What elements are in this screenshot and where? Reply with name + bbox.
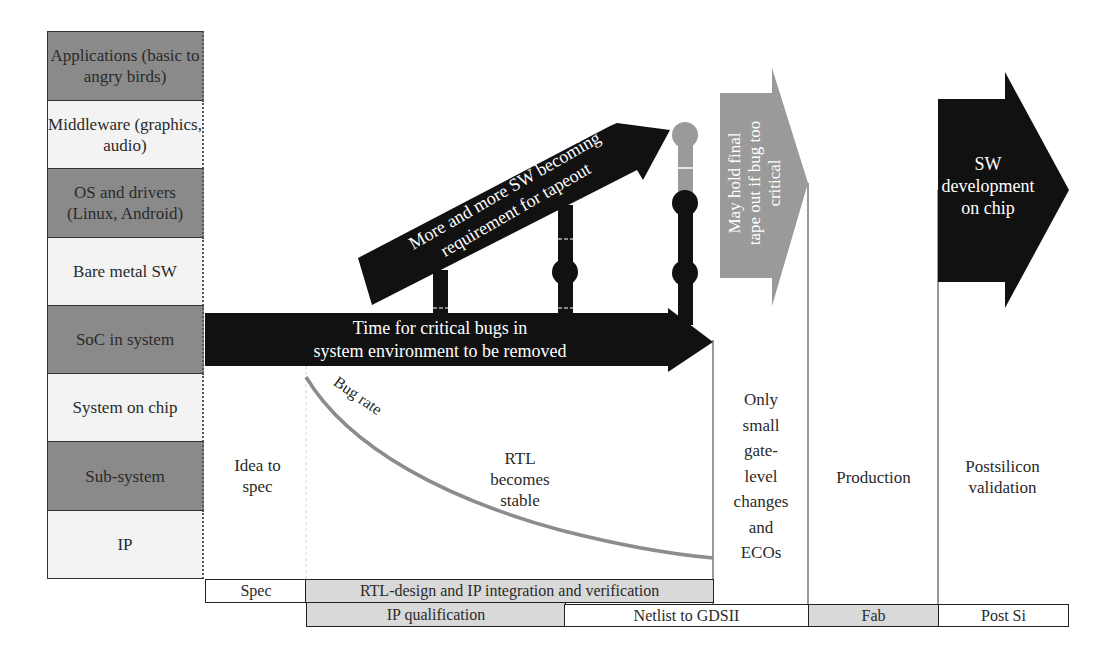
phase-rtl-stable: RTL becomes stable <box>470 448 570 511</box>
phase-production: Production <box>810 467 937 488</box>
sw-dev-line1: SW <box>938 153 1038 175</box>
sw-dev-line3: on chip <box>938 197 1038 219</box>
phase-eco-line: and <box>715 515 807 541</box>
hold-tapeout-line1: May hold final <box>725 93 745 273</box>
critical-bugs-line1: Time for critical bugs in <box>215 317 665 340</box>
layer-bare-metal: Bare metal SW <box>47 237 204 306</box>
timeline-post-si: Post Si <box>938 604 1069 627</box>
phase-rtl-line3: stable <box>470 490 570 511</box>
phase-rtl-line1: RTL <box>470 448 570 469</box>
layer-os-drivers: OS and drivers (Linux, Android) <box>47 168 204 238</box>
phase-eco-line: ECOs <box>715 540 807 566</box>
hold-tapeout-line2: tape out if bug too <box>745 93 765 273</box>
phase-eco-line: changes <box>715 489 807 515</box>
pillar-2 <box>552 205 578 315</box>
layer-label: SoC in system <box>76 329 174 350</box>
phase-eco-line: Only <box>715 387 807 413</box>
phase-eco-line: small <box>715 413 807 439</box>
phase-eco-line: level <box>715 464 807 490</box>
critical-bugs-line2: system environment to be removed <box>215 340 665 363</box>
phase-idea-line2: spec <box>215 476 300 497</box>
phase-idea-to-spec: Idea to spec <box>215 455 300 497</box>
pillar-1 <box>433 270 448 315</box>
sw-hw-codevelopment-diagram: Applications (basic to angry birds) Midd… <box>0 0 1100 665</box>
layer-label: Middleware (graphics, audio) <box>48 114 202 156</box>
pillar-3 <box>672 122 698 325</box>
layer-label: System on chip <box>73 397 178 418</box>
layer-label: Sub-system <box>85 466 164 487</box>
layer-ip: IP <box>47 510 204 579</box>
phase-idea-line1: Idea to <box>215 455 300 476</box>
timeline-rtl-design: RTL-design and IP integration and verifi… <box>305 579 714 603</box>
layer-soc-in-system: SoC in system <box>47 305 204 374</box>
phase-eco-line: gate- <box>715 438 807 464</box>
layer-label: IP <box>117 534 132 555</box>
sw-dev-line2: development <box>938 175 1038 197</box>
timeline-spec: Spec <box>205 579 307 603</box>
phase-rtl-line2: becomes <box>470 469 570 490</box>
layer-system-on-chip: System on chip <box>47 373 204 442</box>
sw-development-label: SW development on chip <box>938 153 1038 219</box>
layer-label: Bare metal SW <box>73 261 177 282</box>
critical-bugs-label: Time for critical bugs in system environ… <box>215 317 665 363</box>
layer-sub-system: Sub-system <box>47 441 204 511</box>
phase-postsi-line1: Postsilicon <box>940 456 1065 477</box>
layer-applications: Applications (basic to angry birds) <box>47 31 204 101</box>
phase-eco: Only small gate- level changes and ECOs <box>715 387 807 566</box>
phase-postsi-line2: validation <box>940 477 1065 498</box>
hold-tapeout-label: May hold final tape out if bug too criti… <box>725 93 785 273</box>
phase-postsilicon: Postsilicon validation <box>940 456 1065 498</box>
layer-label: OS and drivers (Linux, Android) <box>48 182 202 224</box>
timeline-fab: Fab <box>808 604 939 627</box>
hold-tapeout-line3: critical <box>765 93 785 273</box>
timeline-netlist-gdsii: Netlist to GDSII <box>564 604 809 627</box>
timeline-ip-qualification: IP qualification <box>306 602 566 627</box>
layer-middleware: Middleware (graphics, audio) <box>47 100 204 169</box>
layer-label: Applications (basic to angry birds) <box>48 45 202 87</box>
